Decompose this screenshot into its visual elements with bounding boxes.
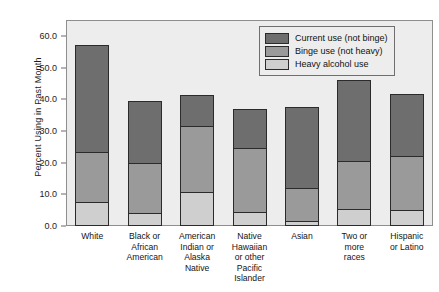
y-tick-label: 40.0	[0, 94, 57, 104]
bar-segment	[337, 161, 371, 209]
bar-segment	[128, 101, 162, 163]
legend-label: Current use (not binge)	[295, 33, 388, 43]
x-axis-label-line: American	[116, 252, 174, 263]
x-axis-label: Asian	[273, 231, 331, 242]
bar-segment	[180, 126, 214, 192]
bar-segment	[285, 188, 319, 221]
bar-group	[285, 107, 319, 226]
x-axis-label-line: Indian or	[168, 242, 226, 253]
legend-item: Current use (not binge)	[265, 32, 388, 44]
y-axis-title: Percent Using in Past Month	[33, 17, 43, 217]
x-axis-label: NativeHawaiianor otherPacificIslander	[221, 231, 279, 284]
x-axis-label-line: more	[325, 242, 383, 253]
legend-swatch	[265, 46, 289, 57]
x-axis-label-line: Islander	[221, 273, 279, 284]
x-axis-labels: WhiteBlack orAfricanAmericanAmericanIndi…	[66, 231, 433, 291]
bar-group	[233, 109, 267, 226]
bar-segment	[180, 95, 214, 127]
x-axis-label-line: Asian	[273, 231, 331, 242]
legend-swatch	[265, 59, 289, 70]
x-axis-label-line: Pacific	[221, 263, 279, 274]
y-tick-label: 50.0	[0, 63, 57, 73]
x-axis-label-line: American	[168, 231, 226, 242]
y-tick-label: 10.0	[0, 189, 57, 199]
x-axis-label-line: or Latino	[378, 242, 436, 253]
x-axis-label-line: Alaska	[168, 252, 226, 263]
bar-segment	[75, 45, 109, 151]
legend-item: Heavy alcohol use	[265, 58, 388, 70]
legend-label: Binge use (not heavy)	[295, 46, 383, 56]
legend-label: Heavy alcohol use	[295, 59, 369, 69]
x-axis-label: White	[63, 231, 121, 242]
x-axis-label-line: Hispanic	[378, 231, 436, 242]
stacked-bar-chart: Percent Using in Past Month 0.010.020.03…	[0, 0, 439, 292]
bar-segment	[180, 192, 214, 226]
bar-group	[180, 95, 214, 227]
x-axis-label-line: Native	[221, 231, 279, 242]
bar-group	[75, 45, 109, 226]
bar-segment	[390, 156, 424, 210]
x-axis-label: Two ormoreraces	[325, 231, 383, 263]
x-axis-label-line: Two or	[325, 231, 383, 242]
bar-group	[390, 94, 424, 226]
bar-segment	[233, 109, 267, 149]
chart-legend: Current use (not binge)Binge use (not he…	[259, 26, 395, 76]
bar-segment	[233, 212, 267, 226]
x-axis-label-line: White	[63, 231, 121, 242]
bar-segment	[337, 209, 371, 226]
bar-segment	[75, 202, 109, 226]
x-axis-label: Hispanicor Latino	[378, 231, 436, 252]
y-tick-label: 30.0	[0, 126, 57, 136]
x-axis-label-line: Hawaiian	[221, 242, 279, 253]
legend-swatch	[265, 33, 289, 44]
x-axis-label-line: races	[325, 252, 383, 263]
bar-segment	[285, 221, 319, 226]
legend-item: Binge use (not heavy)	[265, 45, 388, 57]
bar-group	[128, 101, 162, 226]
bar-segment	[128, 163, 162, 214]
bar-segment	[285, 107, 319, 188]
x-axis-label: AmericanIndian orAlaskaNative	[168, 231, 226, 273]
bar-segment	[390, 210, 424, 226]
x-axis-label: Black orAfricanAmerican	[116, 231, 174, 263]
bar-segment	[75, 152, 109, 203]
x-axis-label-line: African	[116, 242, 174, 253]
x-axis-label-line: Native	[168, 263, 226, 274]
bar-segment	[390, 94, 424, 156]
y-tick-label: 60.0	[0, 31, 57, 41]
bar-segment	[337, 80, 371, 161]
bar-segment	[233, 148, 267, 211]
x-axis-label-line: Black or	[116, 231, 174, 242]
y-tick-label: 20.0	[0, 158, 57, 168]
bar-group	[337, 80, 371, 226]
y-tick-label: 0.0	[0, 221, 57, 231]
x-axis-label-line: or other	[221, 252, 279, 263]
bar-segment	[128, 213, 162, 226]
